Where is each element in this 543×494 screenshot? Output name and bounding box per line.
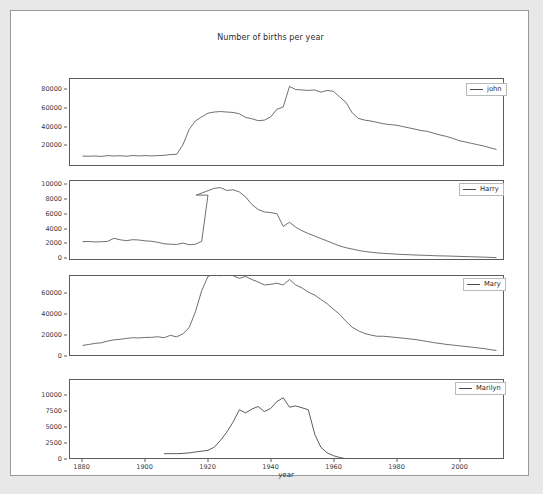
xtick-label: 1960 [325, 463, 342, 471]
ytick-label: 7500 [45, 407, 62, 415]
xtick-label: 1980 [388, 463, 405, 471]
ytick-mark [64, 410, 67, 411]
xtick-label: 2000 [451, 463, 468, 471]
ytick-label: 0 [58, 352, 62, 360]
ytick-mark [64, 355, 67, 356]
xtick-label: 1920 [199, 463, 216, 471]
ytick-label: 4000 [45, 225, 62, 233]
xtick-mark [81, 459, 82, 462]
xtick-mark [396, 459, 397, 462]
legend-line-swatch [463, 189, 476, 190]
ytick-label: 8000 [45, 195, 62, 203]
ytick-mark [64, 442, 67, 443]
ytick-label: 20000 [41, 141, 62, 149]
legend-line-swatch [459, 388, 472, 389]
xtick-mark [144, 459, 145, 462]
ytick-mark [64, 335, 67, 336]
xtick-label: 1900 [136, 463, 153, 471]
ytick-mark [64, 394, 67, 395]
ytick-label: 0 [58, 254, 62, 262]
ytick-label: 20000 [41, 331, 62, 339]
ytick-label: 0 [58, 455, 62, 463]
line-harry [70, 181, 503, 259]
ytick-mark [64, 213, 67, 214]
ytick-label: 5000 [45, 423, 62, 431]
line-mary [70, 276, 503, 355]
line-marilyn [70, 380, 503, 458]
ytick-label: 60000 [41, 289, 62, 297]
xtick-label: 1940 [262, 463, 279, 471]
subplot-marilyn: 10000 7500 5000 2500 0 Marilyn 1880 1900… [11, 11, 530, 131]
yaxis-harry: 10000 8000 6000 4000 2000 0 [11, 180, 69, 260]
ytick-mark [64, 426, 67, 427]
legend-harry[interactable]: Harry [459, 183, 504, 196]
ytick-label: 2500 [45, 439, 62, 447]
xtick-mark [270, 459, 271, 462]
ytick-mark [64, 314, 67, 315]
xtick-mark [207, 459, 208, 462]
legend-line-swatch [467, 284, 480, 285]
ytick-label: 6000 [45, 210, 62, 218]
xtick-label: 1880 [73, 463, 90, 471]
xtick-mark [459, 459, 460, 462]
ytick-label: 10000 [41, 180, 62, 188]
ytick-mark [64, 459, 67, 460]
ytick-mark [64, 199, 67, 200]
legend-marilyn[interactable]: Marilyn [455, 382, 506, 395]
xtick-mark [333, 459, 334, 462]
yaxis-mary: 60000 40000 20000 0 [11, 275, 69, 356]
plot-area-mary [69, 275, 504, 356]
figure-canvas: Number of births per year 80000 60000 40… [10, 10, 529, 476]
ytick-mark [64, 243, 67, 244]
ytick-label: 40000 [41, 310, 62, 318]
legend-label: Marilyn [476, 385, 501, 392]
ytick-mark [64, 145, 67, 146]
ytick-mark [64, 293, 67, 294]
ytick-mark [64, 228, 67, 229]
yaxis-marilyn: 10000 7500 5000 2500 0 [11, 379, 69, 459]
ytick-mark [64, 184, 67, 185]
ytick-label: 10000 [41, 391, 62, 399]
legend-label: Mary [484, 281, 501, 288]
plot-area-marilyn [69, 379, 504, 459]
legend-label: Harry [480, 186, 499, 193]
plot-area-harry [69, 180, 504, 260]
ytick-label: 2000 [45, 239, 62, 247]
legend-mary[interactable]: Mary [463, 278, 506, 291]
xaxis-title: year [278, 471, 294, 479]
ytick-mark [64, 258, 67, 259]
